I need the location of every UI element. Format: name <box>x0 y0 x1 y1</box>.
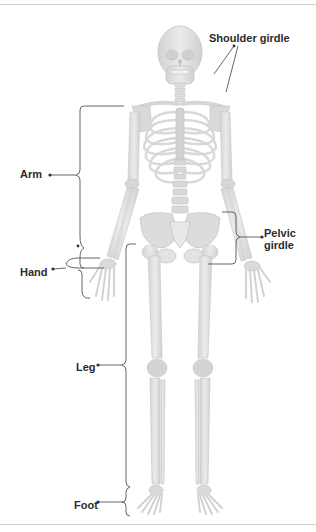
label-pelvic-girdle: Pelvic girdle <box>264 227 314 251</box>
label-pelvic-line1: Pelvic <box>264 227 314 239</box>
label-pelvic-line2: girdle <box>264 239 314 251</box>
left-leg <box>142 245 167 484</box>
label-hand: Hand <box>20 266 48 278</box>
left-hand <box>90 259 116 300</box>
label-arm: Arm <box>20 168 42 180</box>
skeleton-diagram: ...pp... <box>0 0 316 532</box>
spine <box>172 160 188 213</box>
neck-vertebrae <box>175 83 185 102</box>
label-foot: Foot <box>74 499 98 511</box>
right-foot <box>197 485 222 514</box>
right-arm <box>220 112 252 261</box>
right-leg <box>193 245 218 484</box>
bottom-divider <box>0 524 316 525</box>
right-hand <box>244 261 270 302</box>
left-arm <box>107 112 140 260</box>
sternum <box>176 108 184 160</box>
label-leg: Leg <box>76 361 96 373</box>
skull <box>158 26 202 84</box>
label-shoulder-girdle: Shoulder girdle <box>209 32 290 44</box>
bottom-caption-cut: ... <box>108 528 116 532</box>
left-foot <box>138 485 163 514</box>
